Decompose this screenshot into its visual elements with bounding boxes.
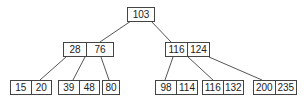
leaf-node: 80 [102, 80, 120, 95]
node-key: 76 [86, 43, 113, 56]
node-key: 15 [11, 81, 31, 94]
node-key: 39 [59, 81, 79, 94]
node-key: 103 [128, 8, 154, 21]
node-key: 28 [64, 43, 86, 56]
internal-node-right: 116 124 [165, 42, 210, 57]
node-key: 116 [203, 81, 223, 94]
leaf-node: 15 20 [10, 80, 52, 95]
node-key: 124 [187, 43, 209, 56]
node-key: 116 [166, 43, 187, 56]
node-key: 80 [103, 81, 119, 94]
leaf-node: 200 235 [253, 80, 297, 95]
leaf-node: 116 132 [202, 80, 244, 95]
internal-node-left: 28 76 [63, 42, 114, 57]
root-node: 103 [127, 7, 155, 22]
node-key: 235 [275, 81, 297, 94]
node-key: 132 [223, 81, 244, 94]
leaf-node: 98 114 [155, 80, 198, 95]
node-key: 200 [254, 81, 275, 94]
node-key: 114 [176, 81, 197, 94]
node-key: 20 [31, 81, 52, 94]
node-key: 98 [156, 81, 176, 94]
leaf-node: 39 48 [58, 80, 100, 95]
node-key: 48 [79, 81, 100, 94]
